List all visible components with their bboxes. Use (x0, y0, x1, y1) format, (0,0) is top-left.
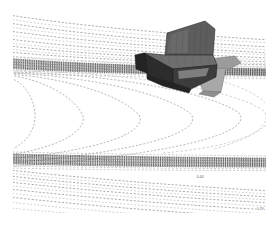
contour-label-1: 0.44 (196, 175, 204, 179)
upper-shock-band-edges (13, 57, 266, 79)
contour-field (13, 13, 266, 213)
cfd-contour-figure: 0.44 0.19 (0, 0, 279, 225)
plot-area: 0.44 0.19 (13, 13, 266, 213)
upper-diagonal-contours-faint (13, 19, 266, 67)
contour-label-2: 0.19 (256, 207, 264, 211)
chevron-contours-outer (13, 70, 266, 153)
upper-diagonal-contours (13, 15, 266, 65)
